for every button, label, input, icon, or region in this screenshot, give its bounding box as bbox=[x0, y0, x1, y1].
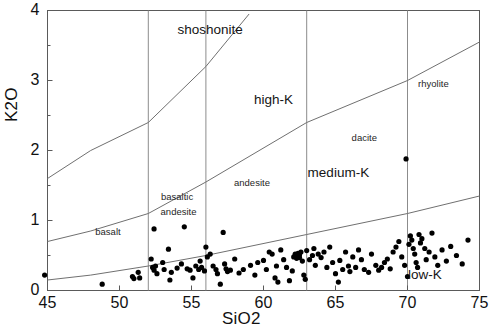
data-point bbox=[353, 265, 358, 270]
rock-label-basaltic-1: basaltic bbox=[161, 191, 193, 202]
data-point bbox=[270, 252, 275, 257]
rock-label-dacite-4: dacite bbox=[352, 132, 377, 143]
vertical-divider-lines bbox=[148, 11, 407, 291]
data-point bbox=[166, 247, 171, 252]
data-point bbox=[359, 257, 364, 262]
data-point bbox=[465, 238, 470, 243]
data-point bbox=[153, 263, 158, 268]
data-point bbox=[419, 236, 424, 241]
data-point bbox=[275, 280, 280, 285]
field-label-shoshonite: shoshonite bbox=[178, 22, 243, 37]
data-point bbox=[319, 255, 324, 260]
data-point bbox=[228, 268, 233, 273]
data-point bbox=[203, 245, 208, 250]
field-label-low-k: low-K bbox=[408, 267, 442, 282]
y-axis-title: K2O bbox=[2, 87, 22, 122]
k2o-sio2-classification-chart bbox=[0, 0, 499, 334]
data-point bbox=[350, 254, 355, 259]
data-point bbox=[261, 258, 266, 263]
y-tick-label-0: 0 bbox=[14, 281, 40, 299]
data-point bbox=[369, 252, 374, 257]
field-label-high-k: high-K bbox=[254, 92, 293, 107]
y-tick-label-3: 3 bbox=[14, 71, 40, 89]
rock-label-rhyolite-5: rhyolite bbox=[418, 78, 449, 89]
y-tick-label-1: 1 bbox=[14, 211, 40, 229]
data-point bbox=[42, 273, 47, 278]
data-point bbox=[396, 239, 401, 244]
data-point bbox=[162, 267, 167, 272]
x-tick-label-70: 70 bbox=[388, 294, 428, 312]
data-point bbox=[362, 267, 367, 272]
data-point bbox=[439, 247, 444, 252]
data-point bbox=[187, 268, 192, 273]
x-axis-title: SiO2 bbox=[222, 309, 261, 329]
data-point bbox=[327, 245, 332, 250]
data-point bbox=[313, 263, 318, 268]
data-point bbox=[179, 261, 184, 266]
data-point bbox=[290, 268, 295, 273]
data-point bbox=[264, 267, 269, 272]
data-point bbox=[167, 277, 172, 282]
data-point bbox=[190, 275, 195, 280]
data-point bbox=[198, 259, 203, 264]
data-point bbox=[366, 270, 371, 275]
data-point bbox=[414, 260, 419, 265]
data-point bbox=[409, 238, 414, 243]
data-point bbox=[460, 261, 465, 266]
data-point bbox=[311, 246, 316, 251]
data-point bbox=[151, 226, 156, 231]
data-point bbox=[137, 275, 142, 280]
data-point bbox=[427, 249, 432, 254]
data-point bbox=[281, 257, 286, 262]
data-point bbox=[252, 273, 257, 278]
data-point bbox=[236, 270, 241, 275]
data-point bbox=[274, 263, 279, 268]
data-point bbox=[385, 256, 390, 261]
data-point bbox=[287, 278, 292, 283]
x-tick-label-75: 75 bbox=[460, 294, 499, 312]
data-point bbox=[411, 246, 416, 251]
y-tick-label-4: 4 bbox=[14, 1, 40, 19]
data-point bbox=[391, 249, 396, 254]
data-point bbox=[321, 249, 326, 254]
data-point bbox=[218, 282, 223, 287]
data-point bbox=[356, 247, 361, 252]
x-tick-label-50: 50 bbox=[100, 294, 140, 312]
x-tick-label-55: 55 bbox=[172, 294, 212, 312]
data-point bbox=[454, 253, 459, 258]
data-point bbox=[272, 275, 277, 280]
data-point bbox=[307, 257, 312, 262]
data-point bbox=[424, 257, 429, 262]
rock-label-basalt-0: basalt bbox=[95, 226, 120, 237]
data-point bbox=[324, 265, 329, 270]
data-point bbox=[347, 269, 352, 274]
data-point bbox=[303, 277, 308, 282]
data-point bbox=[379, 265, 384, 270]
rock-label-andesite-2: andesite bbox=[161, 206, 197, 217]
data-point bbox=[298, 249, 303, 254]
x-tick-label-65: 65 bbox=[316, 294, 356, 312]
data-point bbox=[448, 244, 453, 249]
data-point bbox=[336, 280, 341, 285]
data-point bbox=[278, 247, 283, 252]
x-tick-label-60: 60 bbox=[244, 294, 284, 312]
data-point bbox=[337, 258, 342, 263]
data-point bbox=[393, 245, 398, 250]
data-point bbox=[412, 252, 417, 257]
data-point bbox=[215, 271, 220, 276]
data-point bbox=[232, 256, 237, 261]
data-point bbox=[221, 230, 226, 235]
data-point bbox=[429, 231, 434, 236]
data-point bbox=[175, 266, 180, 271]
data-point bbox=[403, 156, 408, 161]
data-point bbox=[182, 224, 187, 229]
data-point bbox=[373, 263, 378, 268]
figure-container: K2O SiO2 45505560657075 01234 shoshonite… bbox=[0, 0, 499, 334]
data-point bbox=[346, 263, 351, 268]
data-point bbox=[131, 276, 136, 281]
data-point bbox=[432, 254, 437, 259]
data-point bbox=[222, 261, 227, 266]
data-point bbox=[444, 259, 449, 264]
data-point bbox=[304, 248, 309, 253]
scatter-points bbox=[42, 156, 471, 287]
